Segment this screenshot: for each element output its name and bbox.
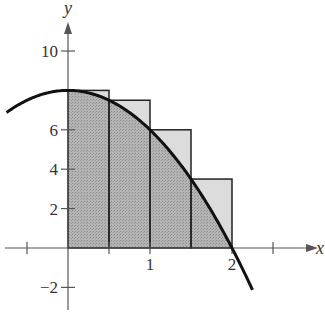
x-axis-label: x bbox=[315, 238, 324, 258]
y-tick-label: 2 bbox=[50, 200, 59, 219]
y-tick-label: 4 bbox=[50, 160, 59, 179]
x-tick-label: 1 bbox=[146, 255, 155, 274]
x-tick-label: 2 bbox=[228, 255, 237, 274]
y-axis-arrow-icon bbox=[64, 22, 72, 34]
y-tick-label: 10 bbox=[41, 42, 58, 61]
y-axis-label: y bbox=[62, 0, 72, 18]
riemann-sum-chart: 12−224610xy bbox=[0, 0, 325, 322]
y-tick-label: 6 bbox=[50, 121, 59, 140]
y-tick-label: −2 bbox=[40, 278, 58, 297]
